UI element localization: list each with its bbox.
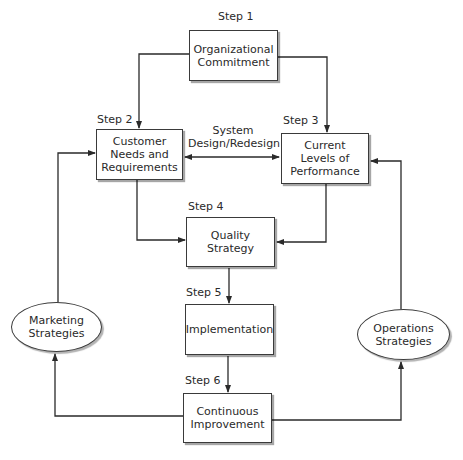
node-label: Organizational Commitment [193, 43, 273, 69]
node-label: Quality Strategy [207, 229, 254, 255]
node-quality-strategy: Quality Strategy [186, 217, 275, 267]
node-marketing-strategies: Marketing Strategies [11, 302, 102, 352]
edge-org-to-customer [139, 54, 189, 128]
step-1-label: Step 1 [218, 10, 254, 23]
edge-label-system-design: System Design/Redesign [188, 124, 278, 150]
node-label: Operations Strategies [373, 322, 433, 348]
step-5-label: Step 5 [186, 286, 222, 299]
edge-marketing-to-customer [58, 153, 95, 302]
node-current-performance: Current Levels of Performance [281, 133, 369, 184]
edge-continuous-to-operations [272, 362, 401, 420]
node-label: Continuous Improvement [191, 405, 265, 431]
edge-customer-to-quality [137, 180, 185, 240]
step-4-label: Step 4 [188, 200, 224, 213]
step-3-label: Step 3 [283, 114, 319, 127]
step-2-label: Step 2 [97, 113, 133, 126]
node-implementation: Implementation [185, 304, 274, 355]
node-customer-needs: Customer Needs and Requirements [96, 129, 183, 180]
step-6-label: Step 6 [185, 374, 221, 387]
edge-operations-to-current [371, 161, 401, 309]
edge-continuous-to-marketing [55, 354, 183, 416]
node-organizational-commitment: Organizational Commitment [189, 30, 278, 81]
node-label: Customer Needs and Requirements [101, 135, 177, 174]
node-label: Marketing Strategies [28, 314, 84, 340]
node-operations-strategies: Operations Strategies [357, 309, 450, 360]
node-continuous-improvement: Continuous Improvement [183, 393, 272, 443]
edge-current-to-quality [277, 184, 326, 242]
node-label: Implementation [186, 323, 273, 336]
node-label: Current Levels of Performance [290, 139, 360, 178]
